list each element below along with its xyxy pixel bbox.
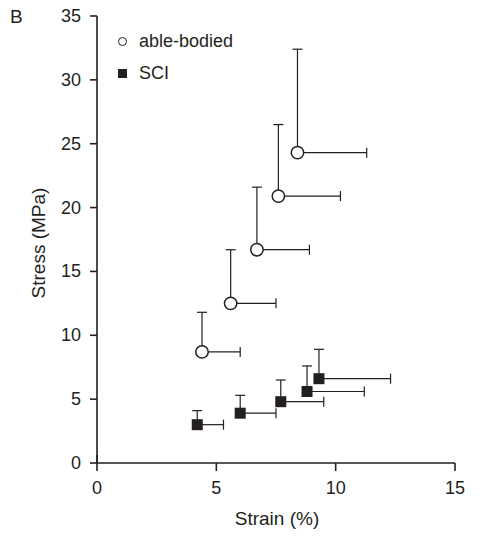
y-tick-label: 20 xyxy=(35,199,81,217)
data-point-open-circle xyxy=(251,244,263,256)
y-tick-label: 10 xyxy=(35,326,81,344)
series-able-bodied xyxy=(196,49,367,358)
x-tick-label: 5 xyxy=(193,479,239,497)
y-tick-label: 0 xyxy=(35,454,81,472)
data-point-filled-square xyxy=(302,386,313,397)
data-point-filled-square xyxy=(235,408,246,419)
data-point-filled-square xyxy=(313,373,324,384)
data-point-open-circle xyxy=(196,346,208,358)
y-tick-label: 25 xyxy=(35,135,81,153)
y-tick-label: 5 xyxy=(35,390,81,408)
data-point-open-circle xyxy=(224,297,236,309)
data-point-open-circle xyxy=(272,190,284,202)
y-tick-label: 35 xyxy=(35,7,81,25)
data-point-filled-square xyxy=(192,419,203,430)
x-tick-label: 15 xyxy=(432,479,478,497)
series-sci xyxy=(192,349,391,430)
y-tick-label: 30 xyxy=(35,71,81,89)
data-point-filled-square xyxy=(275,396,286,407)
x-tick-label: 10 xyxy=(313,479,359,497)
data-point-open-circle xyxy=(291,146,303,158)
x-tick-label: 0 xyxy=(74,479,120,497)
y-tick-label: 15 xyxy=(35,262,81,280)
figure-panel-b: B Stress (MPa) Strain (%) able-bodied SC… xyxy=(0,0,480,541)
